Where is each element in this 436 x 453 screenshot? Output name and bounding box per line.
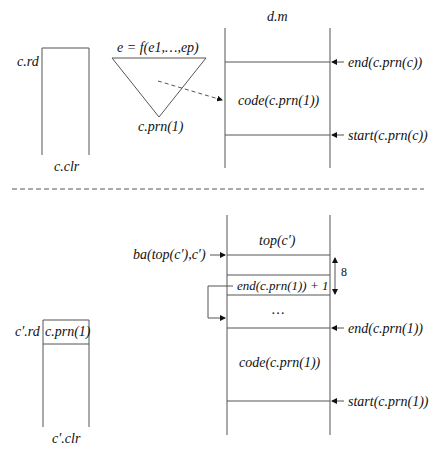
code-label-bottom: code(c.prn(1)) <box>239 356 320 370</box>
register-box-top <box>42 48 89 155</box>
register-cell: c.prn(1) <box>45 325 91 339</box>
end-marker-top: end(c.prn(c)) <box>348 56 422 70</box>
ellipsis: … <box>271 303 285 317</box>
end-marker-bottom: end(c.prn(1)) <box>348 322 423 336</box>
expression-tree <box>112 58 206 117</box>
register-label-top: c.rd <box>17 55 39 69</box>
dashed-arrow <box>158 81 222 100</box>
start-marker-bottom: start(c.prn(1)) <box>348 395 429 409</box>
tree-label: e = f(e1,…,ep) <box>117 41 199 55</box>
top-label: top(c′) <box>259 234 296 248</box>
start-marker-top: start(c.prn(c)) <box>348 129 428 143</box>
ba-label: ba(top(c′),c′) <box>133 248 206 262</box>
register-bottom-label-top: c.clr <box>54 160 79 174</box>
memory-code-label: code(c.prn(1)) <box>238 94 319 108</box>
tree-bottom-label: c.prn(1) <box>138 120 184 134</box>
memory-title: d.m <box>267 10 288 24</box>
register-bottom-label-bottom: c′.clr <box>52 432 80 446</box>
register-label-bottom: c′.rd <box>15 325 40 339</box>
end-plus-one-label: end(c.prn(1)) + 1 <box>237 279 328 292</box>
gap-size-label: 8 <box>341 266 347 278</box>
